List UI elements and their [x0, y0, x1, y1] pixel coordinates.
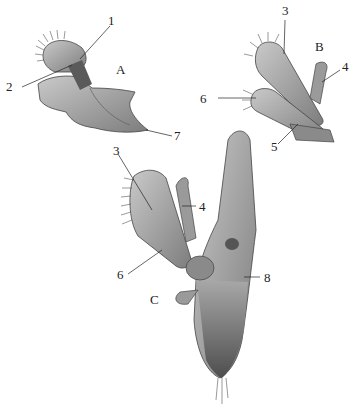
panel-letter-b: B [315, 40, 324, 53]
panel-letter-a: A [116, 63, 125, 76]
panel-c-drawing [118, 131, 260, 404]
label-b-4: 4 [342, 60, 349, 73]
panel-letter-c: C [150, 293, 159, 306]
label-c-6: 6 [117, 268, 124, 281]
label-c-3: 3 [113, 144, 120, 157]
label-b-5: 5 [271, 140, 278, 153]
label-a-2: 2 [6, 80, 13, 93]
panel-a-drawing [22, 26, 172, 136]
label-a-7: 7 [174, 129, 181, 142]
label-b-3: 3 [282, 4, 289, 17]
label-b-6: 6 [200, 92, 207, 105]
label-c-8: 8 [264, 271, 271, 284]
label-a-1: 1 [108, 14, 115, 27]
illustration-canvas [0, 0, 359, 416]
label-c-4: 4 [199, 200, 206, 213]
